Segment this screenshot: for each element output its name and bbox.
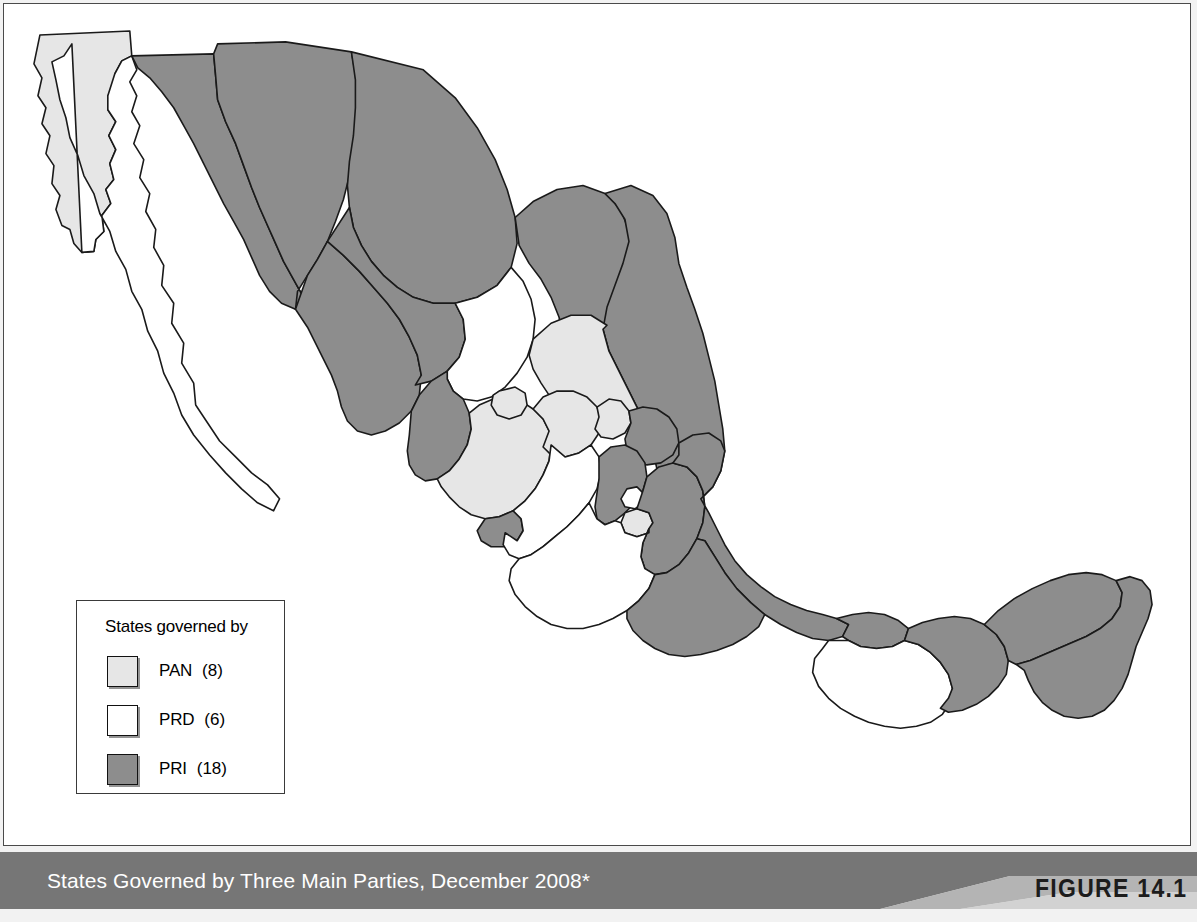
legend-label-pan: PAN [159, 661, 192, 681]
figure-container: States governed by PAN (8) PRD (6) PRI (… [0, 0, 1197, 922]
figure-label-tab [1035, 853, 1148, 868]
legend-title: States governed by [105, 617, 248, 637]
state-aguascalientes [491, 387, 527, 419]
legend-count-pan: (8) [202, 661, 223, 681]
map-legend: States governed by PAN (8) PRD (6) PRI (… [76, 600, 285, 794]
map-panel: States governed by PAN (8) PRD (6) PRI (… [3, 3, 1191, 846]
figure-number-label: FIGURE 14.1 [1035, 874, 1187, 903]
legend-row-prd: PRD (6) [107, 704, 225, 736]
legend-row-pan: PAN (8) [107, 655, 223, 687]
legend-count-prd: (6) [204, 710, 225, 730]
prd-swatch [107, 705, 138, 736]
pri-swatch [107, 754, 138, 785]
legend-row-pri: PRI (18) [107, 753, 227, 785]
figure-caption-text: States Governed by Three Main Parties, D… [47, 852, 590, 909]
legend-label-prd: PRD [159, 710, 194, 730]
legend-label-pri: PRI [159, 759, 187, 779]
pan-swatch [107, 656, 138, 687]
legend-count-pri: (18) [197, 759, 227, 779]
figure-caption-band: States Governed by Three Main Parties, D… [0, 852, 1197, 909]
